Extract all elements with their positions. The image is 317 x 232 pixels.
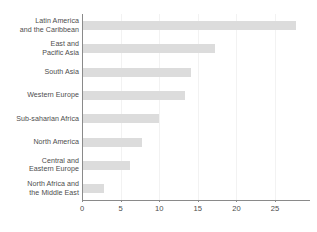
x-tick-label-0: 0 [67,204,97,214]
category-label-line: North America [0,138,79,147]
bar [82,68,191,77]
category-label-line: the Middle East [0,189,79,198]
bar-row [82,177,104,200]
x-tick-mark-0 [82,200,83,202]
category-label-line: Latin America [0,17,79,26]
x-tick-label-15: 15 [183,204,213,214]
bar [82,91,185,100]
x-tick-mark-20 [236,200,237,202]
bar-row [82,37,215,60]
gridline-20 [236,14,237,201]
category-label-line: North Africa and [0,180,79,189]
x-tick-label-20: 20 [221,204,251,214]
bar [82,44,215,53]
category-label: Central andEastern Europe [0,157,79,174]
category-label-line: Western Europe [0,91,79,100]
x-tick-mark-10 [159,200,160,202]
x-tick-label-5: 5 [106,204,136,214]
category-label-line: South Asia [0,68,79,77]
bar-row [82,154,130,177]
category-label-line: East and [0,40,79,49]
x-tick-mark-5 [121,200,122,202]
bar [82,161,130,170]
x-tick-mark-25 [275,200,276,202]
bar-row [82,84,185,107]
bar-row [82,61,191,84]
category-label-line: and the Caribbean [0,26,79,35]
category-label: Western Europe [0,91,79,100]
category-label: East andPacific Asia [0,40,79,57]
category-label: Latin Americaand the Caribbean [0,17,79,34]
bar-row [82,14,296,37]
y-axis-spine [82,14,83,201]
bar-chart: Latin Americaand the CaribbeanEast andPa… [0,0,317,232]
gridline-25 [275,14,276,201]
bar [82,21,296,30]
bar-row [82,131,142,154]
bar [82,114,159,123]
category-label: North America [0,138,79,147]
category-label-line: Eastern Europe [0,165,79,174]
category-label-line: Pacific Asia [0,49,79,58]
category-label: Sub-saharian Africa [0,115,79,124]
bar-row [82,107,159,130]
bar [82,138,142,147]
category-label-line: Central and [0,157,79,166]
category-label-line: Sub-saharian Africa [0,115,79,124]
category-label: South Asia [0,68,79,77]
x-tick-label-25: 25 [260,204,290,214]
x-tick-label-10: 10 [144,204,174,214]
category-label: North Africa andthe Middle East [0,180,79,197]
bar [82,184,104,193]
x-tick-mark-15 [198,200,199,202]
